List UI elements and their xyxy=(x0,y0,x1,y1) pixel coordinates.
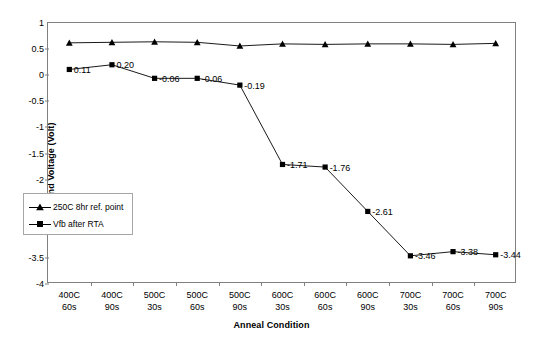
x-tick-label-line: 600C xyxy=(357,289,379,301)
x-tick-label-line: 60s xyxy=(314,301,336,313)
x-tick-label: 600C90s xyxy=(357,289,379,313)
data-point-label: 0.11 xyxy=(74,65,91,75)
square-icon xyxy=(450,249,455,254)
x-tick-label-line: 90s xyxy=(485,301,507,313)
x-tick-label-line: 600C xyxy=(314,289,336,301)
plot-area: 10.50-0.5-1-1.5-2-2.5-3-3.5-4 400C60s400… xyxy=(47,22,516,283)
x-tick-label-line: 30s xyxy=(272,301,294,313)
square-icon xyxy=(365,209,370,214)
x-tick-label-line: 700C xyxy=(400,289,422,301)
x-tick-label: 700C60s xyxy=(442,289,464,313)
data-point-label: 0.20 xyxy=(116,60,134,70)
x-tick-label-line: 700C xyxy=(485,289,507,301)
y-tick-label: 0.5 xyxy=(31,44,44,54)
data-point-label: -0.19 xyxy=(244,81,265,91)
square-icon xyxy=(323,164,328,169)
x-tick-label: 700C30s xyxy=(400,289,422,313)
x-axis-title: Anneal Condition xyxy=(0,320,543,330)
x-tick-label-line: 500C xyxy=(186,289,208,301)
data-point-label: -1.71 xyxy=(287,160,308,170)
series-line-vfb xyxy=(69,65,495,256)
x-tick-label: 500C30s xyxy=(144,289,166,313)
x-tick-label-line: 90s xyxy=(357,301,379,313)
triangle-icon xyxy=(29,202,51,212)
x-tick-label-line: 500C xyxy=(144,289,166,301)
y-tick-label: -3.5 xyxy=(28,253,44,263)
square-icon xyxy=(237,83,242,88)
legend-item-vfb[interactable]: Vfb after RTA xyxy=(24,215,132,232)
data-point-label: -0.06 xyxy=(159,74,180,84)
data-point-label: -3.38 xyxy=(458,247,479,257)
x-tick-label-line: 90s xyxy=(229,301,251,313)
y-tick-label: 1 xyxy=(39,18,44,28)
x-tick-label-line: 500C xyxy=(229,289,251,301)
legend-label-ref-point: 250C 8hr ref. point xyxy=(51,202,123,212)
x-tick-label-line: 60s xyxy=(59,301,81,313)
square-icon xyxy=(29,219,51,229)
x-tick-label-line: 30s xyxy=(144,301,166,313)
square-icon xyxy=(109,62,114,67)
legend-item-ref-point[interactable]: 250C 8hr ref. point xyxy=(24,198,132,215)
y-tick-label: -4 xyxy=(36,279,44,289)
x-tick-label-line: 60s xyxy=(186,301,208,313)
x-tick-label: 500C90s xyxy=(229,289,251,313)
x-tick-label: 600C60s xyxy=(314,289,336,313)
data-point-label: -3.46 xyxy=(415,251,436,261)
x-tick-label-line: 400C xyxy=(101,289,123,301)
y-tick-label: -1.5 xyxy=(28,149,44,159)
square-icon xyxy=(408,253,413,258)
legend-label-vfb: Vfb after RTA xyxy=(51,219,104,229)
x-tick-label: 600C30s xyxy=(272,289,294,313)
x-tick-label-line: 60s xyxy=(442,301,464,313)
y-tick-label: 0 xyxy=(39,70,44,80)
square-icon xyxy=(67,67,72,72)
x-tick-label: 400C60s xyxy=(59,289,81,313)
data-point-label: -2.61 xyxy=(372,207,393,217)
square-icon xyxy=(195,76,200,81)
x-tick-label-line: 400C xyxy=(59,289,81,301)
data-point-label: -1.76 xyxy=(330,163,351,173)
square-icon xyxy=(152,76,157,81)
x-tick-label-line: 700C xyxy=(442,289,464,301)
y-tick-label: -0.5 xyxy=(28,96,44,106)
chart-legend: 250C 8hr ref. point Vfb after RTA xyxy=(23,193,133,235)
y-tick-label: -2 xyxy=(36,175,44,185)
data-point-label: -0.06 xyxy=(202,74,223,84)
data-point-label: -3.44 xyxy=(500,250,521,260)
square-icon xyxy=(493,252,498,257)
square-icon xyxy=(280,162,285,167)
x-tick-label: 500C60s xyxy=(186,289,208,313)
x-tick-label-line: 90s xyxy=(101,301,123,313)
x-tick-label: 700C90s xyxy=(485,289,507,313)
y-tick-label: -1 xyxy=(36,122,44,132)
x-tick-label: 400C90s xyxy=(101,289,123,313)
x-tick-label-line: 600C xyxy=(272,289,294,301)
flatband-voltage-chart: Flatband Voltage (Volt) Anneal Condition… xyxy=(0,0,543,343)
x-tick-label-line: 30s xyxy=(400,301,422,313)
